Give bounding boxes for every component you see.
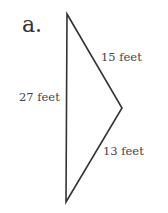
side-label-upper-right: 15 feet (101, 52, 142, 64)
side-label-left: 27 feet (19, 92, 60, 104)
part-label: a. (22, 14, 42, 36)
side-label-lower-right: 13 feet (103, 146, 144, 158)
